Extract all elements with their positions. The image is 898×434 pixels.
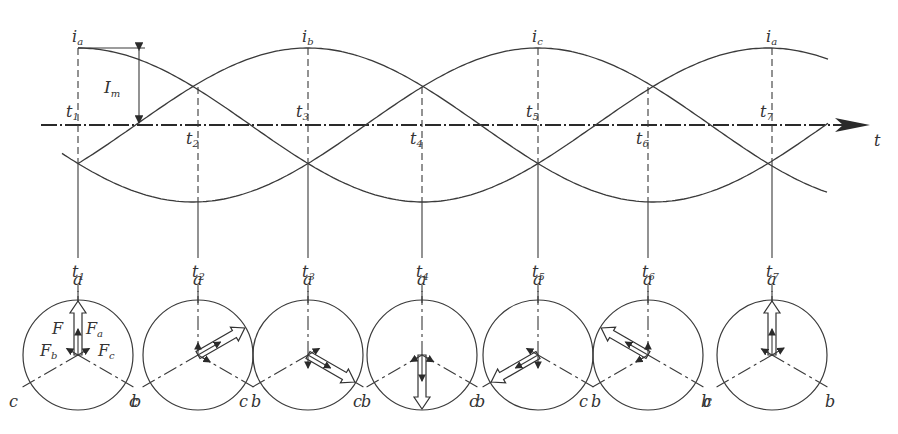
axis-c-label: c xyxy=(9,392,18,411)
axis-a-label: a xyxy=(533,270,543,289)
resultant-mmf-arrow-icon xyxy=(306,352,355,383)
axis-a-label: a xyxy=(193,270,203,289)
phasor-diagram-t6: abc xyxy=(579,270,711,411)
instant-label-upper: t3 xyxy=(296,102,309,122)
resultant-mmf-arrow-icon xyxy=(196,327,245,358)
axis-a-label: a xyxy=(73,270,83,289)
axis-a-label: a xyxy=(417,270,427,289)
axis-c-label: c xyxy=(703,392,712,411)
rotating-mmf-diagram: t Im t1t1t2t2t3t3t4t4t5t5t6t6t7t7iaibici… xyxy=(0,0,898,434)
instant-label-upper: t1 xyxy=(66,102,79,122)
axis-c-label: c xyxy=(353,392,362,411)
axis-c-label: c xyxy=(579,392,588,411)
axis-c-label: c xyxy=(129,392,138,411)
axis-label: t xyxy=(874,131,881,150)
im-label: Im xyxy=(103,77,120,99)
axis-b-label: b xyxy=(361,392,371,411)
phasor-diagram-t1: abcFFaFbFc xyxy=(9,270,141,411)
instant-label-upper: t4 xyxy=(410,129,423,149)
instant-label-upper: t5 xyxy=(526,102,539,122)
Fc-label: Fc xyxy=(97,341,115,361)
instant-label-upper: t6 xyxy=(636,129,649,149)
axis-a-label: a xyxy=(643,270,653,289)
peak-label: ic xyxy=(532,27,543,47)
axis-a-label: a xyxy=(767,270,777,289)
axis-b-label: b xyxy=(825,392,835,411)
axis-c-label: c xyxy=(239,392,248,411)
Fb-label: Fb xyxy=(39,341,58,361)
phasor-diagrams: abcFFaFbFcabcabcabcabcabcabc xyxy=(9,270,835,411)
F-label: F xyxy=(51,319,64,338)
axis-b-label: b xyxy=(591,392,601,411)
axis-b-label: b xyxy=(251,392,261,411)
axis-c-label: c xyxy=(469,392,478,411)
phasor-diagram-t3: abc xyxy=(239,270,371,411)
Fa-label: Fa xyxy=(85,319,103,339)
peak-label: ia xyxy=(72,27,83,47)
instant-markers: t1t1t2t2t3t3t4t4t5t5t6t6t7t7iaibicia xyxy=(66,27,779,305)
phasor-diagram-t5: abc xyxy=(469,270,601,411)
resultant-mmf-arrow-icon xyxy=(601,327,650,358)
time-axis: t xyxy=(41,118,881,150)
resultant-mmf-arrow-icon xyxy=(491,352,540,383)
instant-label-upper: t2 xyxy=(186,129,199,149)
instant-label-upper: t7 xyxy=(760,102,773,122)
peak-label: ib xyxy=(302,27,314,47)
phasor-diagram-t4: abc xyxy=(353,270,485,411)
axis-a-label: a xyxy=(303,270,313,289)
phasor-diagram-t7: abc xyxy=(703,270,835,411)
amplitude-marker: Im xyxy=(78,48,145,123)
peak-label: ia xyxy=(766,27,777,47)
phasor-diagram-t2: abc xyxy=(129,270,261,411)
